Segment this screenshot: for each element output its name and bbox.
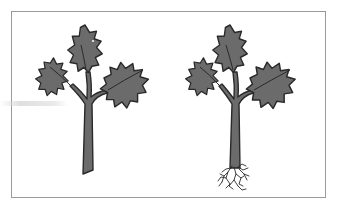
stem [219,72,253,168]
cutting-without-roots [36,25,149,174]
leaf-top [68,25,103,73]
leaf-right [246,62,295,108]
leaf-left [36,58,70,96]
leaf-top [213,25,248,73]
leaf-right [100,62,148,108]
highlight [92,40,94,42]
leaf-left [186,58,219,96]
holly-illustration [0,0,338,207]
cutting-with-roots [186,25,296,190]
